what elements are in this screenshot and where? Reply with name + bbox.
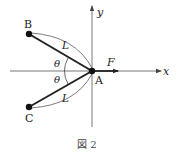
point-c <box>26 104 32 110</box>
label-c: C <box>25 112 33 125</box>
diagram: B C A y x F L L θ θ 図 2 <box>0 0 177 155</box>
label-theta-lower: θ <box>54 74 60 85</box>
label-force: F <box>106 56 115 69</box>
label-b: B <box>24 18 32 31</box>
label-a: A <box>94 74 104 87</box>
point-b <box>26 31 32 37</box>
label-length-lower: L <box>61 92 69 104</box>
figure-caption: 図 2 <box>77 139 97 150</box>
label-y: y <box>96 6 104 19</box>
label-x: x <box>163 65 170 78</box>
label-length-upper: L <box>61 39 69 51</box>
label-theta-upper: θ <box>54 58 60 69</box>
